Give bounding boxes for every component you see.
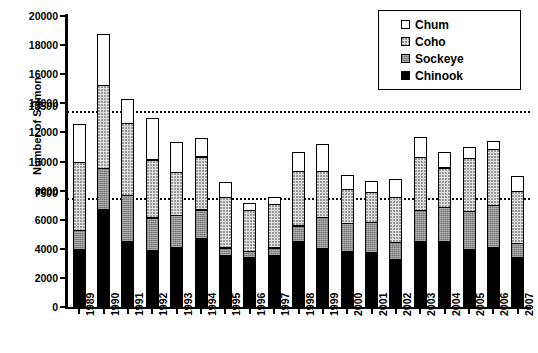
bar-segment-coho-1999 bbox=[316, 171, 329, 218]
x-tick-label-1993: 1993 bbox=[182, 293, 194, 316]
bar-segment-sockeye-2000 bbox=[341, 223, 354, 252]
x-tick-mark bbox=[127, 309, 129, 314]
reference-line-label-13500: 13500 bbox=[0, 100, 58, 112]
bar-segment-chum-2002 bbox=[389, 179, 402, 198]
y-tick-mark bbox=[60, 44, 65, 46]
y-tick-label-wrap: 12000 bbox=[0, 127, 58, 137]
reference-line-label-7500: 7500 bbox=[0, 187, 58, 199]
bar-group-1996[interactable] bbox=[243, 16, 256, 307]
bar-segment-chum-1999 bbox=[316, 144, 329, 172]
bar-segment-coho-1992 bbox=[146, 160, 159, 219]
bar-stack bbox=[146, 118, 159, 307]
bar-segment-coho-1991 bbox=[121, 123, 134, 196]
legend-item-sockeye[interactable]: Sockeye bbox=[385, 50, 514, 67]
bar-stack bbox=[97, 34, 110, 307]
bar-group-1994[interactable] bbox=[195, 16, 208, 307]
x-tick-label-1998: 1998 bbox=[304, 293, 316, 316]
bar-stack bbox=[243, 203, 256, 307]
bar-segment-sockeye-2002 bbox=[389, 242, 402, 259]
y-tick-mark bbox=[60, 131, 65, 133]
x-tick-label-1992: 1992 bbox=[157, 293, 169, 316]
x-tick-mark bbox=[151, 309, 153, 314]
bar-segment-chum-1990 bbox=[97, 34, 110, 86]
bar-segment-coho-1996 bbox=[243, 210, 256, 252]
bar-segment-coho-2003 bbox=[414, 157, 427, 211]
legend-label-chinook: Chinook bbox=[415, 70, 463, 82]
x-tick-mark bbox=[492, 309, 494, 314]
bar-segment-sockeye-2007 bbox=[511, 243, 524, 258]
bar-segment-coho-2007 bbox=[511, 191, 524, 244]
bar-stack bbox=[389, 179, 402, 307]
y-tick-mark bbox=[60, 190, 65, 192]
x-tick-mark bbox=[346, 309, 348, 314]
bar-group-1991[interactable] bbox=[121, 16, 134, 307]
y-tick-mark bbox=[60, 219, 65, 221]
salmon-stacked-bar-chart: Number of Salmon 02000400060008000100001… bbox=[0, 0, 538, 353]
legend-swatch-sockeye-icon bbox=[401, 54, 410, 63]
y-tick-label: 2000 bbox=[2, 273, 58, 283]
y-tick-mark bbox=[60, 161, 65, 163]
bar-segment-coho-1993 bbox=[170, 172, 183, 216]
bar-group-1992[interactable] bbox=[146, 16, 159, 307]
bar-segment-coho-1998 bbox=[292, 171, 305, 226]
bar-segment-coho-2002 bbox=[389, 197, 402, 243]
x-tick-label-1994: 1994 bbox=[206, 293, 218, 316]
x-tick-label-2003: 2003 bbox=[425, 293, 437, 316]
x-tick-label-1996: 1996 bbox=[255, 293, 267, 316]
bar-group-1990[interactable] bbox=[97, 16, 110, 307]
y-tick-mark bbox=[60, 73, 65, 75]
y-tick-mark bbox=[60, 306, 65, 308]
bar-segment-chum-1994 bbox=[195, 138, 208, 158]
x-tick-mark bbox=[444, 309, 446, 314]
legend-item-chum[interactable]: Chum bbox=[385, 16, 514, 33]
x-tick-mark bbox=[395, 309, 397, 314]
bar-segment-sockeye-1992 bbox=[146, 218, 159, 251]
bar-stack bbox=[365, 181, 378, 307]
legend-swatch-coho-icon bbox=[401, 37, 410, 46]
bar-segment-sockeye-2006 bbox=[487, 205, 500, 248]
y-tick-label: 18000 bbox=[2, 40, 58, 50]
bar-group-2001[interactable] bbox=[365, 16, 378, 307]
bar-group-1999[interactable] bbox=[316, 16, 329, 307]
legend-label-chum: Chum bbox=[415, 19, 449, 31]
bar-segment-sockeye-2005 bbox=[463, 211, 476, 250]
bar-group-1997[interactable] bbox=[268, 16, 281, 307]
bar-segment-sockeye-1999 bbox=[316, 217, 329, 249]
y-tick-label-wrap: 16000 bbox=[0, 69, 58, 79]
bar-segment-coho-1994 bbox=[195, 157, 208, 211]
bar-segment-sockeye-1994 bbox=[195, 210, 208, 240]
x-tick-mark bbox=[176, 309, 178, 314]
y-tick-label-wrap: 6000 bbox=[0, 215, 58, 225]
bar-stack bbox=[121, 99, 134, 307]
bar-group-1989[interactable] bbox=[73, 16, 86, 307]
bar-stack bbox=[511, 176, 524, 307]
bar-stack bbox=[195, 138, 208, 307]
bar-group-2000[interactable] bbox=[341, 16, 354, 307]
legend-item-coho[interactable]: Coho bbox=[385, 33, 514, 50]
x-tick-mark bbox=[298, 309, 300, 314]
legend-label-sockeye: Sockeye bbox=[415, 53, 464, 65]
bar-stack bbox=[73, 124, 86, 307]
bar-group-1993[interactable] bbox=[170, 16, 183, 307]
x-tick-label-2006: 2006 bbox=[498, 293, 510, 316]
legend-item-chinook[interactable]: Chinook bbox=[385, 67, 514, 84]
bar-group-1998[interactable] bbox=[292, 16, 305, 307]
bar-segment-coho-2004 bbox=[438, 168, 451, 208]
bar-segment-sockeye-1990 bbox=[97, 168, 110, 209]
bar-segment-chum-2007 bbox=[511, 176, 524, 192]
x-tick-label-2005: 2005 bbox=[474, 293, 486, 316]
bar-segment-chum-1993 bbox=[170, 142, 183, 173]
bar-segment-sockeye-1991 bbox=[121, 195, 134, 242]
x-tick-mark bbox=[468, 309, 470, 314]
bar-stack bbox=[414, 137, 427, 307]
x-tick-mark bbox=[371, 309, 373, 314]
bar-stack bbox=[316, 144, 329, 307]
x-tick-mark bbox=[249, 309, 251, 314]
bar-segment-coho-1997 bbox=[268, 204, 281, 248]
bar-segment-coho-1990 bbox=[97, 85, 110, 169]
bar-group-1995[interactable] bbox=[219, 16, 232, 307]
bar-stack bbox=[487, 141, 500, 307]
bar-stack bbox=[438, 152, 451, 307]
y-tick-mark bbox=[60, 277, 65, 279]
legend-label-coho: Coho bbox=[415, 36, 446, 48]
